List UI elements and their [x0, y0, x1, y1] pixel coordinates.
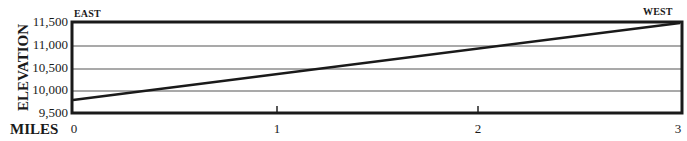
x-tick-0: 0	[64, 121, 84, 137]
x-tick-3: 3	[668, 121, 687, 137]
x-axis-title: MILES	[10, 121, 58, 138]
x-tick-1: 1	[267, 121, 287, 137]
elevation-line	[73, 23, 680, 100]
plot-border	[72, 22, 682, 113]
x-tick-2: 2	[468, 121, 488, 137]
plot-area	[0, 0, 687, 141]
